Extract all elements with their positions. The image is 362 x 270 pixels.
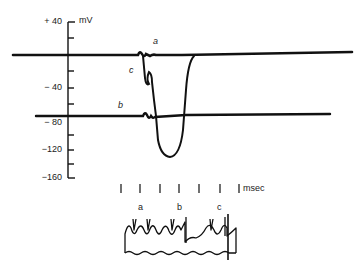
y-tick-label-neg40: − 40 (26, 83, 62, 92)
stimulus-label-a: a (138, 203, 143, 212)
y-tick-label-neg120: −120 (26, 145, 62, 154)
trace-c-hook (143, 56, 194, 157)
stimulus-label-c: c (217, 203, 222, 212)
y-tick-label-neg160: −160 (26, 173, 62, 182)
oscilloscope-figure: + 40 mV − 40 − 80 −120 −160 a c b msec a… (0, 0, 362, 270)
time-unit-label: msec (243, 184, 265, 193)
figure-canvas (0, 0, 362, 270)
stimulus-record (125, 214, 236, 260)
time-marker (121, 184, 239, 193)
y-tick-label-40: + 40 (26, 17, 62, 26)
y-axis-unit: mV (79, 16, 93, 25)
stimulus-label-b: b (177, 203, 182, 212)
trace-label-c: c (129, 66, 134, 75)
trace-a (13, 52, 352, 56)
y-axis (68, 22, 75, 178)
trace-label-a: a (153, 37, 158, 46)
y-tick-label-neg80: − 80 (26, 118, 62, 127)
trace-label-b: b (118, 101, 123, 110)
